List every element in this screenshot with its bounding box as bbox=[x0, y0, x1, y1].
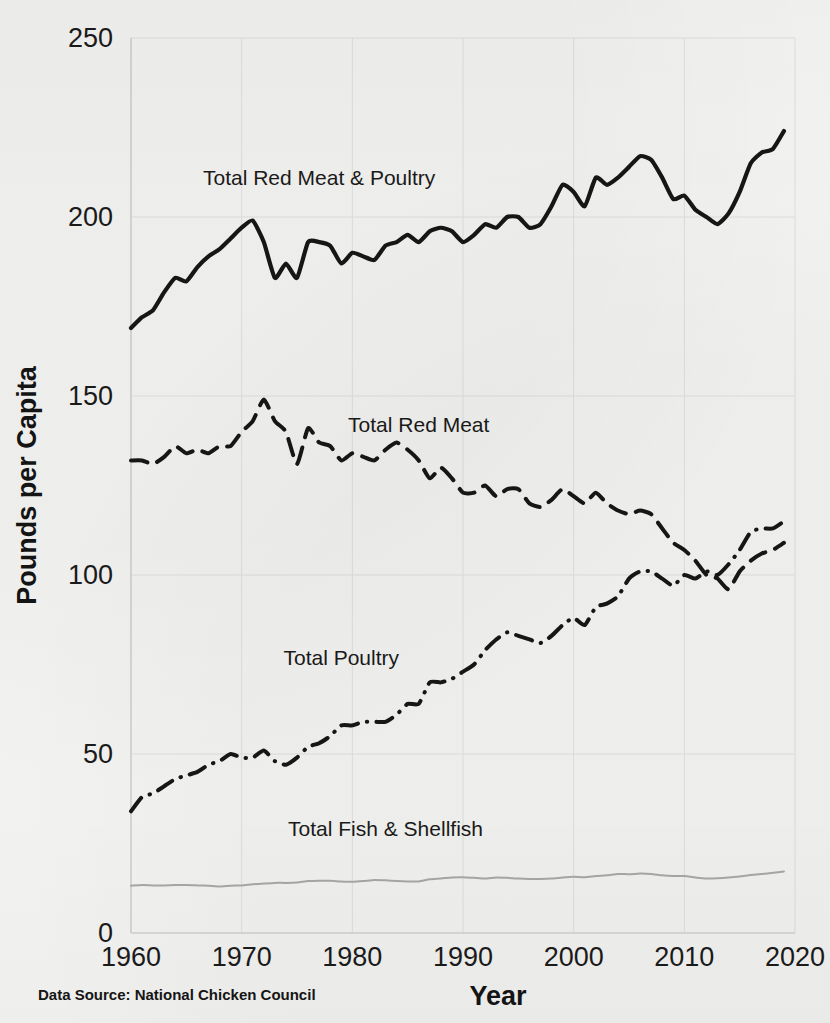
x-tick-label: 1990 bbox=[433, 942, 493, 972]
series-label-total-poultry: Total Poultry bbox=[283, 646, 399, 669]
y-tick-label: 250 bbox=[68, 23, 113, 53]
series-labels: Total Red Meat & PoultryTotal Red MeatTo… bbox=[203, 166, 490, 841]
x-tick-label: 1970 bbox=[212, 942, 272, 972]
line-chart: Total Red Meat & PoultryTotal Red MeatTo… bbox=[0, 0, 830, 1023]
series-group bbox=[131, 131, 784, 886]
y-tick-label: 50 bbox=[83, 739, 113, 769]
y-axis-title: Pounds per Capita bbox=[12, 365, 42, 605]
series-line-total-red-meat-poultry bbox=[131, 131, 784, 328]
x-tick-label: 2000 bbox=[544, 942, 604, 972]
x-axis-title: Year bbox=[469, 981, 527, 1011]
series-line-total-poultry bbox=[131, 521, 784, 811]
data-source-note: Data Source: National Chicken Council bbox=[38, 986, 316, 1003]
series-label-total-fish-shellfish: Total Fish & Shellfish bbox=[288, 817, 483, 840]
x-tick-label: 1980 bbox=[322, 942, 382, 972]
series-label-total-red-meat: Total Red Meat bbox=[348, 413, 489, 436]
y-tick-label: 200 bbox=[68, 202, 113, 232]
chart-container: Total Red Meat & PoultryTotal Red MeatTo… bbox=[0, 0, 830, 1023]
series-label-total-red-meat-poultry: Total Red Meat & Poultry bbox=[203, 166, 436, 189]
y-tick-label: 150 bbox=[68, 381, 113, 411]
x-tick-label: 1960 bbox=[101, 942, 161, 972]
y-tick-label: 100 bbox=[68, 560, 113, 590]
series-line-total-fish-shellfish bbox=[131, 871, 784, 886]
x-tick-label: 2020 bbox=[765, 942, 825, 972]
x-tick-label: 2010 bbox=[654, 942, 714, 972]
